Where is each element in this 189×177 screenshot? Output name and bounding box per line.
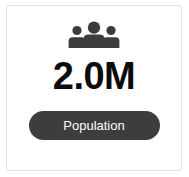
people-group-icon — [66, 21, 122, 49]
status-badge: Population — [29, 111, 160, 140]
status-badge-label: Population — [63, 119, 124, 133]
population-stat-card: 2.0M Population — [6, 5, 182, 171]
stat-value: 2.0M — [53, 56, 135, 96]
